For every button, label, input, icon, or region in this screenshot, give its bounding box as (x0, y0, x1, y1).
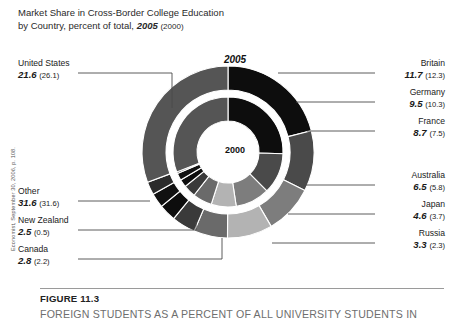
callout-country-name: Germany (409, 87, 445, 98)
callout-germany: Germany9.5 (10.3) (409, 87, 445, 110)
callout-value-2000: (12.3) (425, 71, 445, 80)
callout-country-name: Japan (413, 199, 445, 210)
callout-canada: Canada2.8 (2.2) (18, 244, 50, 267)
donut-chart: 2005 2000 United States21.6 (26.1)Other3… (0, 0, 453, 282)
callout-country-name: United States (18, 58, 70, 69)
figure-number: FIGURE 11.3 (40, 293, 99, 304)
callout-australia: Australia6.5 (5.8) (412, 170, 445, 193)
callout-country-name: New Zealand (18, 215, 69, 226)
callout-value-2005: 6.5 (5.8) (412, 181, 445, 193)
callout-value-2005: 11.7 (12.3) (405, 69, 445, 81)
callout-country-name: Australia (412, 170, 445, 181)
callout-japan: Japan4.6 (3.7) (413, 199, 445, 222)
callout-value-2005: 21.6 (26.1) (18, 69, 70, 81)
callout-value-2000: (7.5) (429, 129, 445, 138)
callout-value-2005: 4.6 (3.7) (413, 210, 445, 222)
callout-country-name: France (413, 116, 445, 127)
callout-value-2000: (0.5) (34, 228, 50, 237)
callout-value-2000: (10.3) (425, 100, 445, 109)
callout-value-2000: (31.6) (39, 199, 59, 208)
callout-value-2005: 2.8 (2.2) (18, 255, 50, 267)
callout-value-2000: (5.8) (429, 183, 445, 192)
callout-value-2000: (3.7) (429, 212, 445, 221)
callout-value-2005: 8.7 (7.5) (413, 127, 445, 139)
callout-britain: Britain11.7 (12.3) (405, 58, 445, 81)
callout-value-2005: 2.5 (0.5) (18, 226, 69, 238)
callout-country-name: Other (18, 186, 59, 197)
callout-country-name: Canada (18, 244, 50, 255)
callout-new-zealand: New Zealand2.5 (0.5) (18, 215, 69, 238)
callout-value-2000: (2.3) (429, 241, 445, 250)
figure-caption: FOREIGN STUDENTS AS A PERCENT OF ALL UNI… (40, 308, 450, 320)
callout-other: Other31.6 (31.6) (18, 186, 59, 209)
callout-value-2000: (2.2) (34, 257, 50, 266)
callout-value-2005: 31.6 (31.6) (18, 197, 59, 209)
callout-leader-lines (0, 0, 453, 282)
callout-country-name: Russia (413, 228, 445, 239)
callout-value-2005: 3.3 (2.3) (413, 239, 445, 251)
callout-value-2000: (26.1) (39, 71, 59, 80)
caption-divider (40, 288, 444, 289)
callout-france: France8.7 (7.5) (413, 116, 445, 139)
callout-united-states: United States21.6 (26.1) (18, 58, 70, 81)
callout-country-name: Britain (405, 58, 445, 69)
callout-value-2005: 9.5 (10.3) (409, 98, 445, 110)
callout-russia: Russia3.3 (2.3) (413, 228, 445, 251)
